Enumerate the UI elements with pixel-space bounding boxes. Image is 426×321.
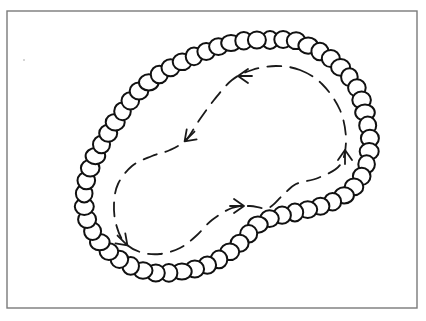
arrow-upper-middle-icon	[180, 127, 200, 147]
diagram-canvas: Bead chain loop with circulating flow	[0, 0, 426, 321]
paper-speck	[23, 59, 25, 61]
flow-arrows	[113, 69, 352, 250]
bead	[248, 31, 266, 48]
arrow-right-icon	[338, 150, 352, 164]
flow-path	[114, 66, 346, 254]
arrow-lower-middle-icon	[230, 199, 244, 213]
dashed-flow-line	[114, 66, 346, 254]
